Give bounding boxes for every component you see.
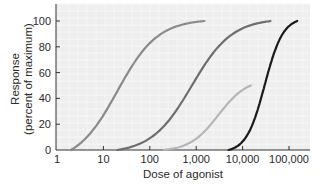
dose-response-chart: 020406080100 1101001,00010,000100,000 Do… [0, 0, 322, 186]
x-tick-label: 1 [54, 153, 60, 165]
x-axis-label: Dose of agonist [143, 168, 224, 180]
y-tick-label: 60 [39, 67, 51, 79]
x-tick-label: 100,000 [269, 153, 309, 165]
x-tick-label: 100 [141, 153, 159, 165]
y-tick-label: 20 [39, 118, 51, 130]
y-tick-label: 100 [33, 15, 51, 27]
y-tick-label: 80 [39, 41, 51, 53]
x-tick-label: 10 [97, 153, 109, 165]
x-tick-label: 1,000 [182, 153, 210, 165]
y-tick-label: 0 [45, 144, 51, 156]
y-axis-label: Response [9, 53, 21, 105]
y-axis-sublabel: (percent of maximum) [22, 23, 34, 135]
x-tick-label: 10,000 [226, 153, 260, 165]
y-tick-label: 40 [39, 92, 51, 104]
